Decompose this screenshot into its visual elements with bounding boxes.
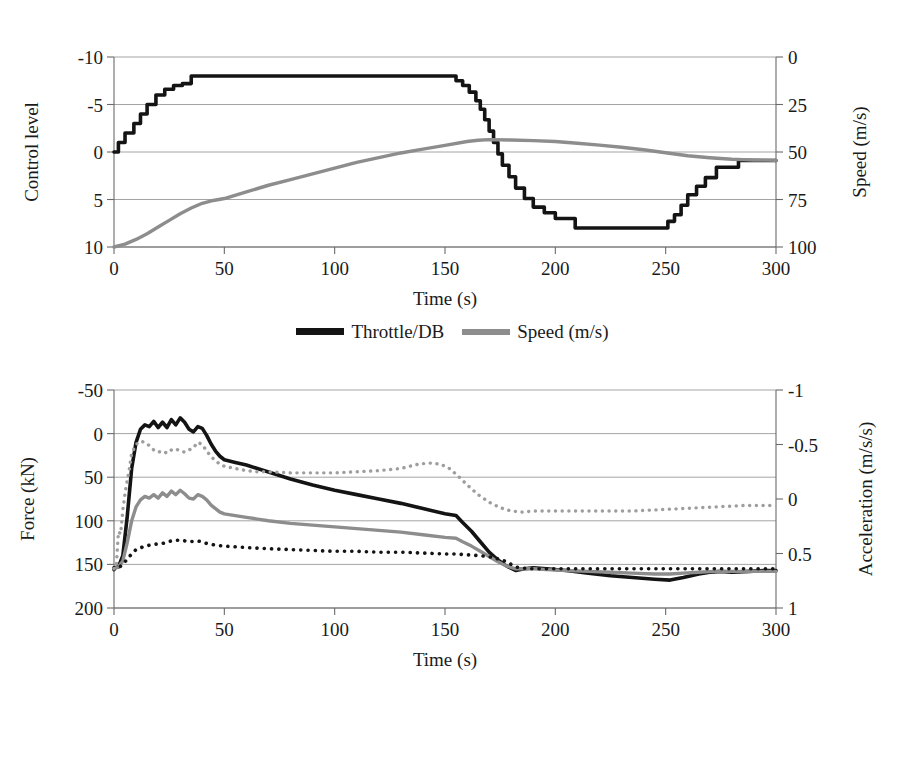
- x-axis-tick-label: 50: [215, 619, 234, 640]
- x-axis-tick-label: 150: [431, 619, 460, 640]
- y-axis-tick-label: 100: [75, 511, 104, 532]
- y-axis-tick-label: 10: [84, 237, 103, 258]
- y2-axis-tick-label: 100: [788, 237, 817, 258]
- y2-axis-title: Speed (m/s): [849, 106, 871, 197]
- x-axis-tick-label: 0: [109, 258, 119, 279]
- top-chart-legend: Throttle/DB Speed (m/s): [0, 322, 905, 341]
- series-traction-db-force-kn: [114, 418, 776, 580]
- x-axis-tick-label: 250: [651, 258, 680, 279]
- legend-row: Throttle/DB Speed (m/s): [287, 322, 617, 341]
- y-axis-tick-label: -50: [78, 380, 103, 401]
- y2-axis-tick-label: 0: [788, 489, 798, 510]
- y-axis-tick-label: 200: [75, 598, 104, 619]
- x-axis-tick-label: 200: [541, 619, 570, 640]
- series-coupler-force-2-kn: [114, 540, 776, 570]
- y2-axis-tick-label: 0: [788, 47, 798, 68]
- x-axis-tick-label: 300: [762, 619, 791, 640]
- y2-axis-title: Acceleration (m/s/s): [855, 422, 877, 577]
- y-axis-title: Control level: [21, 102, 42, 202]
- y-axis-tick-label: -10: [78, 47, 103, 68]
- figure-container: 1050-5-101007550250050100150200250300Tim…: [0, 0, 905, 773]
- x-axis-tick-label: 250: [651, 619, 680, 640]
- series-coupler-force-1-kn: [114, 490, 776, 574]
- y2-axis-tick-label: 0.5: [788, 544, 812, 565]
- y-axis-tick-label: 5: [94, 190, 104, 211]
- x-axis-tick-label: 300: [762, 258, 791, 279]
- legend-label: Speed (m/s): [517, 322, 608, 341]
- top-chart-plot: 1050-5-101007550250050100150200250300Tim…: [0, 0, 905, 322]
- x-axis-title: Time (s): [413, 288, 477, 310]
- y-axis-tick-label: 150: [75, 554, 104, 575]
- y2-axis-tick-label: 25: [788, 95, 807, 116]
- x-axis-tick-label: 100: [320, 258, 349, 279]
- y-axis-title: Force (kN): [17, 457, 39, 541]
- legend-item-throttle-db[interactable]: Throttle/DB: [296, 322, 444, 341]
- legend-label: Throttle/DB: [351, 322, 444, 341]
- y-axis-tick-label: 0: [94, 142, 104, 163]
- legend-swatch-line-icon: [296, 328, 344, 335]
- legend-item-speed[interactable]: Speed (m/s): [462, 322, 608, 341]
- y2-axis-tick-label: 50: [788, 142, 807, 163]
- x-axis-tick-label: 150: [431, 258, 460, 279]
- y2-axis-tick-label: -1: [788, 380, 804, 401]
- x-axis-tick-label: 0: [109, 619, 119, 640]
- x-axis-tick-label: 50: [215, 258, 234, 279]
- y2-axis-tick-label: -0.5: [788, 435, 818, 456]
- bottom-chart-panel: 200150100500-5010.50-0.5-105010015020025…: [0, 365, 905, 773]
- series-speed-m-s: [114, 140, 776, 247]
- y-axis-tick-label: -5: [87, 95, 103, 116]
- y-axis-tick-label: 50: [84, 467, 103, 488]
- legend-swatch-line-icon: [462, 329, 510, 335]
- x-axis-tick-label: 100: [320, 619, 349, 640]
- y2-axis-tick-label: 75: [788, 190, 807, 211]
- y-axis-tick-label: 0: [94, 424, 104, 445]
- x-axis-tick-label: 200: [541, 258, 570, 279]
- y2-axis-tick-label: 1: [788, 598, 798, 619]
- x-axis-title: Time (s): [413, 649, 477, 671]
- top-chart-panel: 1050-5-101007550250050100150200250300Tim…: [0, 0, 905, 365]
- bottom-chart-plot: 200150100500-5010.50-0.5-105010015020025…: [0, 365, 905, 677]
